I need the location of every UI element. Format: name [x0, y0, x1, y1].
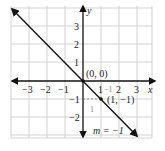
slope-label: m = −1	[93, 125, 124, 136]
y-tick-neg1: −1	[69, 94, 80, 105]
grid	[11, 6, 152, 138]
x-tick-neg2: −2	[40, 84, 51, 95]
coordinate-plane: y x −3 −2 −1 1 2 3 3 2 1 −1 −2 (0, 0) (1…	[0, 0, 165, 151]
x-tick-neg3: −3	[22, 84, 33, 95]
x-tick-neg1: −1	[58, 84, 69, 95]
point-label: (1, −1)	[107, 94, 134, 106]
x-tick-3: 3	[134, 84, 139, 95]
y-tick-1: 1	[74, 57, 79, 68]
run-label: 1	[90, 105, 94, 114]
x-tick-1: 1	[98, 84, 103, 95]
point-origin	[81, 79, 85, 83]
point-1-neg1	[99, 97, 103, 101]
origin-label: (0, 0)	[86, 68, 108, 80]
y-axis-label: y	[86, 5, 92, 16]
y-tick-2: 2	[74, 39, 79, 50]
x-axis-label: x	[147, 84, 153, 95]
rise-label: −1	[104, 85, 113, 94]
y-tick-neg2: −2	[69, 112, 80, 123]
y-tick-3: 3	[74, 21, 79, 32]
